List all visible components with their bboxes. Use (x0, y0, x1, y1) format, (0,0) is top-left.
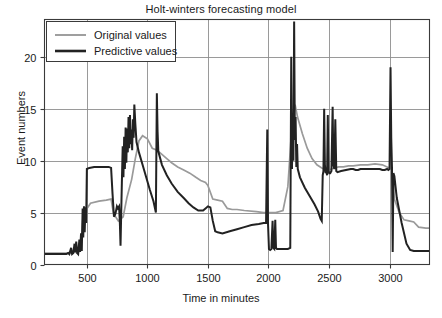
y-tick-label: 15 (24, 104, 36, 116)
y-tick-label: 5 (30, 208, 36, 220)
series-line-original (45, 105, 430, 253)
x-tick-label: 1500 (196, 272, 220, 284)
chart-figure: Holt-winters forecasting model Event num… (0, 0, 442, 318)
y-tick-label: 20 (24, 52, 36, 64)
x-tick-label: 1000 (135, 272, 159, 284)
plot-area: 5001000150020002500300005101520 Original… (0, 0, 442, 318)
x-tick-label: 500 (78, 272, 96, 284)
y-tick-label: 0 (30, 260, 36, 272)
tick-marks (41, 58, 391, 269)
legend-label-predictive[interactable]: Predictive values (94, 45, 178, 57)
x-tick-label: 3000 (378, 272, 402, 284)
x-tick-label: 2500 (317, 272, 341, 284)
chart-legend[interactable]: Original valuesPredictive values (47, 22, 178, 62)
legend-label-original[interactable]: Original values (94, 29, 167, 41)
y-tick-label: 10 (24, 156, 36, 168)
x-tick-label: 2000 (256, 272, 280, 284)
